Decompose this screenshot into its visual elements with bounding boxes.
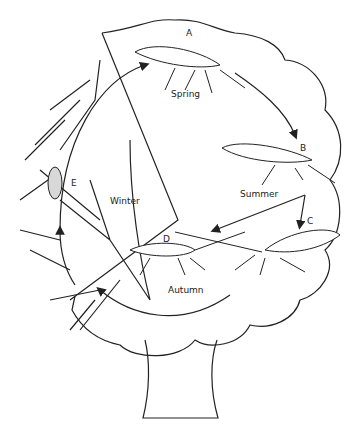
label-b: B	[300, 143, 306, 153]
arrow-summer-autumn	[215, 195, 305, 230]
label-a: A	[186, 28, 192, 38]
arrow-to-egg	[60, 230, 75, 285]
label-c: C	[307, 216, 313, 226]
label-d: D	[163, 234, 170, 244]
label-e: E	[71, 178, 77, 188]
label-winter: Winter	[110, 196, 140, 206]
egg-e	[48, 167, 62, 199]
aphid-d	[130, 232, 245, 275]
arrow-summer-c	[300, 195, 305, 225]
life-cycle-diagram	[0, 0, 356, 430]
tree-crown	[72, 20, 341, 356]
label-spring: Spring	[171, 89, 200, 99]
arrow-spring-summer	[235, 73, 295, 135]
label-autumn: Autumn	[168, 285, 204, 295]
aphid-a	[135, 47, 245, 93]
label-summer: Summer	[240, 189, 278, 199]
aphid-c	[175, 230, 340, 275]
arrow-autumn-winter	[100, 290, 230, 316]
aphid-b	[222, 144, 335, 185]
tree-trunk	[143, 340, 218, 418]
